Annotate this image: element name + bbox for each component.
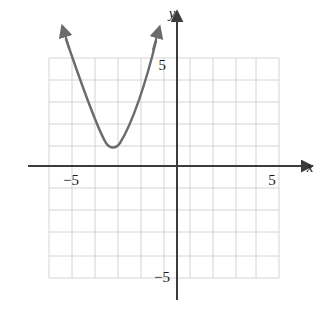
x-axis-label: x xyxy=(306,159,314,175)
x-tick-label-positive-5: 5 xyxy=(268,172,276,188)
y-tick-label-positive-5: 5 xyxy=(159,57,167,73)
graph-figure: x y −5 5 5 −5 xyxy=(0,0,335,315)
coordinate-plane-svg: x y −5 5 5 −5 xyxy=(0,0,335,315)
y-tick-label-negative-5: −5 xyxy=(154,269,170,285)
parabola-curve xyxy=(66,39,156,148)
watermark-text xyxy=(112,1,202,13)
x-tick-label-negative-5: −5 xyxy=(63,172,79,188)
